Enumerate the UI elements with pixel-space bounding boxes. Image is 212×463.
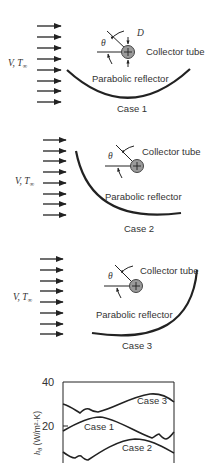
series-case-2-line — [63, 439, 174, 460]
parabolic-reflector-curve — [76, 151, 181, 215]
diameter-label: D — [136, 28, 144, 38]
series-case-1-line — [63, 417, 174, 439]
y-tick-label-40: 40 — [42, 376, 54, 388]
collector-tube-icon — [104, 265, 143, 298]
collector-tube-label: Collector tube — [142, 146, 201, 157]
collector-tube-label: Collector tube — [146, 46, 205, 57]
flow-arrows-icon — [40, 259, 63, 334]
collector-tube-icon — [105, 145, 144, 178]
flow-arrows-icon — [37, 26, 61, 102]
theta-label: θ — [108, 271, 113, 281]
figure-canvas: V, T∞ θ D Collector tube Parabolic refle… — [0, 0, 212, 463]
free-stream-label: V, T∞ — [13, 292, 33, 303]
flow-arrows-icon — [43, 140, 66, 215]
case-caption: Case 1 — [117, 103, 147, 114]
theta-label: θ — [101, 38, 106, 48]
series-label-case-3: Case 3 — [137, 395, 167, 406]
y-tick-label-20: 20 — [42, 420, 54, 432]
h-theta-chart: 40 20 hθ (W/m²·K) Case 3 Case 1 Case 2 — [32, 376, 174, 463]
series-label-case-1: Case 1 — [84, 421, 114, 432]
theta-label: θ — [108, 151, 113, 161]
case-caption: Case 3 — [122, 340, 152, 351]
free-stream-label: V, T∞ — [8, 58, 28, 69]
collector-tube-label: Collector tube — [140, 265, 199, 276]
y-axis-label: hθ (W/m²·K) — [32, 411, 43, 455]
case-caption: Case 2 — [124, 223, 154, 234]
case-3-diagram: V, T∞ θ Collector tube Parabolic reflect… — [13, 259, 199, 351]
parabolic-reflector-label: Parabolic reflector — [92, 73, 169, 84]
free-stream-label: V, T∞ — [15, 176, 35, 187]
case-2-diagram: V, T∞ θ Collector tube Parabolic reflect… — [15, 140, 201, 234]
parabolic-reflector-label: Parabolic reflector — [96, 309, 173, 320]
parabolic-reflector-label: Parabolic reflector — [105, 191, 182, 202]
collector-tube-icon — [97, 31, 135, 67]
case-1-diagram: V, T∞ θ D Collector tube Parabolic refle… — [8, 26, 205, 114]
series-label-case-2: Case 2 — [122, 442, 152, 453]
